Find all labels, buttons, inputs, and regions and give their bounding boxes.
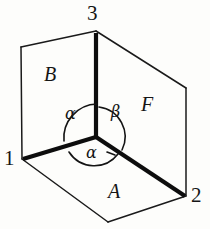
arc-alpha-bottom-tick [107,152,115,155]
box-emphasized-edges [23,33,185,196]
geometry-figure: 3 1 2 B F A α β α [0,0,210,229]
edge-backtopleft-to-v3 [21,31,96,47]
face-label-a: A [108,181,120,201]
angle-label-alpha-bottom: α [86,145,97,161]
edge-v3-to-backtopright [96,31,186,88]
vertex-label-1: 1 [4,148,15,169]
angle-label-beta-right: β [111,104,120,120]
angle-label-alpha-left: α [65,106,76,122]
vertex-label-2: 2 [191,185,202,206]
vertex-label-3: 3 [87,3,98,24]
edge-backtopleft-to-v1 [21,47,22,159]
edge-v1-to-frontbottom [22,159,108,222]
box-thin-edges [21,31,186,222]
face-label-f: F [141,94,153,114]
face-label-b: B [44,64,56,84]
box-diagram-canvas [0,0,210,229]
